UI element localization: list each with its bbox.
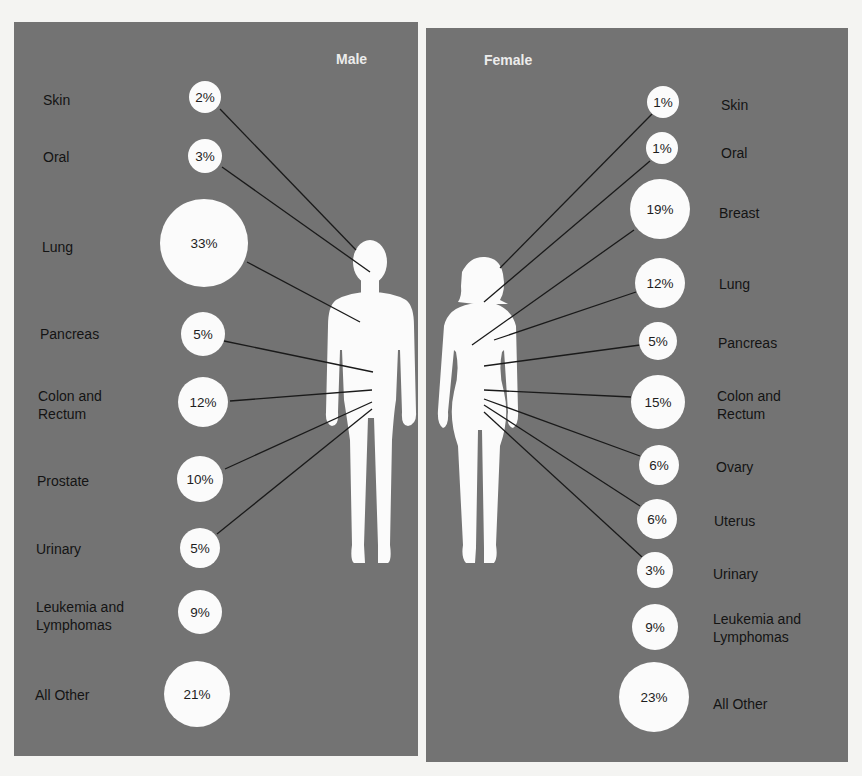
bubble-male-urinary: 5%	[180, 528, 220, 568]
bubble-male-lung: 33%	[160, 199, 248, 287]
label-female-skin: Skin	[721, 96, 748, 114]
bubble-female-urinary: 3%	[637, 552, 673, 588]
svg-text:5%: 5%	[190, 541, 210, 556]
svg-text:10%: 10%	[186, 472, 213, 487]
svg-text:19%: 19%	[646, 202, 673, 217]
label-female-uterus: Uterus	[714, 512, 755, 530]
label-male-prostate: Prostate	[37, 472, 89, 490]
svg-text:3%: 3%	[645, 563, 665, 578]
svg-text:2%: 2%	[195, 90, 215, 105]
svg-text:3%: 3%	[195, 149, 215, 164]
label-male-colon-rectum: Colon and Rectum	[38, 387, 102, 423]
svg-text:12%: 12%	[646, 276, 673, 291]
svg-text:1%: 1%	[652, 141, 672, 156]
bubble-male-colon-rectum: 12%	[178, 377, 228, 427]
svg-text:33%: 33%	[190, 236, 217, 251]
male-title: Male	[336, 51, 367, 67]
label-male-skin: Skin	[43, 91, 70, 109]
label-male-pancreas: Pancreas	[40, 325, 99, 343]
label-female-breast: Breast	[719, 204, 759, 222]
svg-text:5%: 5%	[648, 334, 668, 349]
bubble-female-lung: 12%	[635, 258, 685, 308]
bubble-female-ovary: 6%	[639, 445, 679, 485]
label-male-all-other: All Other	[35, 686, 89, 704]
bubble-female-pancreas: 5%	[639, 322, 677, 360]
bubble-male-leukemia-lymphomas: 9%	[178, 590, 222, 634]
bubble-male-oral: 3%	[188, 139, 222, 173]
female-body-silhouette-icon	[438, 257, 518, 563]
label-male-lung: Lung	[42, 238, 73, 256]
svg-text:21%: 21%	[183, 687, 210, 702]
bubble-male-all-other: 21%	[164, 661, 230, 727]
label-female-colon-rectum: Colon and Rectum	[717, 387, 781, 423]
bubble-female-oral: 1%	[646, 132, 678, 164]
bubble-female-uterus: 6%	[637, 499, 677, 539]
svg-text:23%: 23%	[640, 690, 667, 705]
label-female-pancreas: Pancreas	[718, 334, 777, 352]
svg-text:9%: 9%	[645, 620, 665, 635]
svg-text:1%: 1%	[653, 95, 673, 110]
bubble-male-skin: 2%	[189, 81, 221, 113]
bubble-male-pancreas: 5%	[181, 312, 225, 356]
female-bubbles: 1% 1% 19% 12% 5% 15% 6% 6% 3% 9% 23%	[619, 86, 690, 732]
bubble-female-colon-rectum: 15%	[631, 375, 685, 429]
label-female-oral: Oral	[721, 144, 747, 162]
label-male-urinary: Urinary	[36, 540, 81, 558]
label-female-leukemia-lymphomas: Leukemia and Lymphomas	[713, 610, 801, 646]
svg-text:5%: 5%	[193, 327, 213, 342]
svg-text:12%: 12%	[189, 395, 216, 410]
female-title: Female	[484, 52, 532, 68]
label-male-leukemia-lymphomas: Leukemia and Lymphomas	[36, 598, 124, 634]
bubble-female-skin: 1%	[647, 86, 679, 118]
svg-text:15%: 15%	[644, 395, 671, 410]
label-female-all-other: All Other	[713, 695, 767, 713]
male-body-silhouette-icon	[326, 240, 416, 563]
bubble-female-leukemia-lymphomas: 9%	[632, 604, 678, 650]
bubble-female-all-other: 23%	[619, 662, 689, 732]
label-female-urinary: Urinary	[713, 565, 758, 583]
label-female-ovary: Ovary	[716, 458, 753, 476]
svg-text:6%: 6%	[647, 512, 667, 527]
male-bubbles: 2% 3% 33% 5% 12% 10% 5% 9% 21%	[160, 81, 248, 727]
label-male-oral: Oral	[43, 148, 69, 166]
bubble-male-prostate: 10%	[177, 456, 223, 502]
label-female-lung: Lung	[719, 275, 750, 293]
svg-text:9%: 9%	[190, 605, 210, 620]
bubble-female-breast: 19%	[630, 179, 690, 239]
svg-text:6%: 6%	[649, 458, 669, 473]
